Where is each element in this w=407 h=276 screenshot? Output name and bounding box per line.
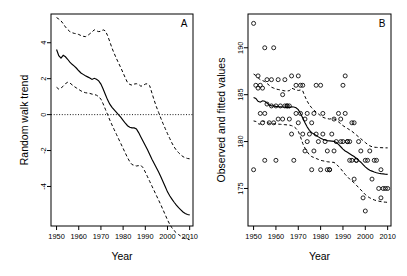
data-point [287,117,291,121]
data-point [325,149,329,153]
data-point [378,168,382,172]
x-axis-tick-label: 1960 [71,232,87,241]
y-axis-tick-label: 0 [40,113,49,117]
panel-id-label: B [378,18,385,29]
y-axis-tick-label: 180 [236,135,245,147]
x-axis-tick-label: 1970 [290,232,306,241]
data-point [370,177,374,181]
data-point [340,83,344,87]
data-point [307,132,311,136]
data-point [262,46,266,50]
data-point [356,140,360,144]
data-point [311,149,315,153]
data-point [367,149,371,153]
x-axis-tick-label: 1980 [115,232,131,241]
x-axis-tick-label: 1980 [312,232,328,241]
figure-container: 1950196019701980199020002010420-2-4YearR… [0,0,407,276]
data-point [361,196,365,200]
x-axis-title: Year [111,250,133,262]
data-point [294,111,298,115]
data-point [309,168,313,172]
x-axis-tick-label: 1970 [93,232,109,241]
confidence-band-line [253,74,387,148]
y-axis-tick-label: 175 [236,182,245,194]
plot-frame [51,14,193,226]
data-point [262,111,266,115]
x-axis-tick-label: 1950 [48,232,64,241]
x-axis-tick-label: 1990 [137,232,153,241]
x-axis-tick-label: 1990 [334,232,350,241]
y-axis-tick-label: 2 [40,77,49,81]
data-point [343,74,347,78]
panel-a: 1950196019701980199020002010420-2-4YearR… [0,0,204,276]
data-point [336,111,340,115]
data-point [309,121,313,125]
data-point [343,111,347,115]
data-point [305,140,309,144]
data-point [305,111,309,115]
data-point [318,168,322,172]
data-point [314,83,318,87]
y-axis-tick-label: -4 [40,183,49,190]
data-point [311,111,315,115]
x-axis-title: Year [308,250,330,262]
y-axis-tick-label: 190 [236,42,245,54]
data-point [302,149,306,153]
y-axis-tick-label: 4 [40,41,49,45]
data-point [363,209,367,213]
data-point [332,149,336,153]
data-point [329,132,333,136]
data-point [352,177,356,181]
fitted-trend-line [57,50,190,215]
data-point [316,140,320,144]
data-point [296,74,300,78]
x-axis-tick-label: 2010 [181,232,197,241]
fitted-trend-line [253,97,387,174]
data-point [291,158,295,162]
data-point [271,46,275,50]
x-axis-tick-label: 2000 [159,232,175,241]
panel-id-label: A [181,18,188,29]
confidence-band-line [57,82,190,239]
data-point [251,168,255,172]
data-point [289,74,293,78]
data-point [320,111,324,115]
data-point [320,132,324,136]
data-point [256,74,260,78]
y-axis-title: Observed and fitted values [215,58,227,183]
data-point [294,83,298,87]
x-axis-tick-label: 1950 [245,232,261,241]
y-axis-title: Random walk trend [18,75,30,166]
panel-b: 1950196019701980199020002010190185180175… [204,0,407,276]
x-axis-tick-label: 2000 [357,232,373,241]
data-point [280,93,284,97]
data-point [258,111,262,115]
data-point [378,196,382,200]
data-point [300,132,304,136]
data-point [282,78,286,82]
data-point [296,121,300,125]
x-axis-tick-label: 1960 [267,232,283,241]
data-point [276,117,280,121]
x-axis-tick-label: 2010 [379,232,395,241]
data-point [269,78,273,82]
data-point [251,21,255,25]
data-point [376,186,380,190]
data-point [358,149,362,153]
data-point [260,86,264,90]
y-axis-tick-label: 185 [236,89,245,101]
data-point [289,132,293,136]
data-point [273,158,277,162]
data-point [264,78,268,82]
plot-frame [248,14,391,226]
data-point [276,78,280,82]
data-point [318,83,322,87]
data-point [338,117,342,121]
y-axis-tick-label: -2 [40,147,49,154]
data-point [280,117,284,121]
data-point [262,158,266,162]
